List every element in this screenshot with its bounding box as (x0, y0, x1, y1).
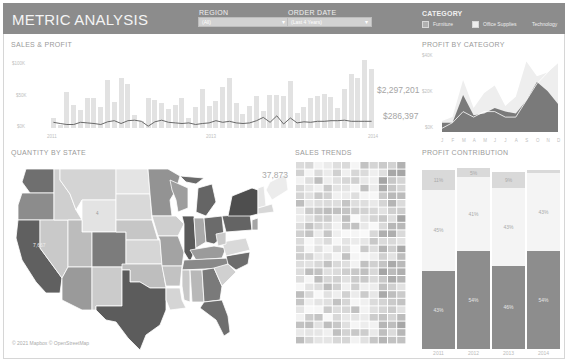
heatmap-cell (333, 223, 341, 230)
heatmap-cell (342, 284, 350, 291)
heatmap-cell (379, 322, 387, 329)
heatmap-cell (314, 253, 322, 260)
month-tick: J (504, 138, 506, 143)
heatmap-cell (305, 329, 313, 336)
heatmap-cell (351, 185, 359, 192)
heatmap-cell (360, 322, 368, 329)
heatmap-cell (314, 185, 322, 192)
map-max-value: 37,873 (262, 170, 288, 180)
heatmap-cell (360, 253, 368, 260)
heatmap-cell (324, 261, 332, 268)
state-pennsylvania (222, 214, 252, 232)
heatmap-cell (342, 192, 350, 199)
profit-contribution-chart[interactable]: 43%45%11%54%41%5%46%43%9%54%43% (422, 168, 562, 349)
heatmap-cell (397, 329, 405, 336)
heatmap-cell (379, 299, 387, 306)
state-south-dakota (116, 194, 152, 220)
heatmap-cell (342, 306, 350, 313)
heatmap-cell (370, 261, 378, 268)
heatmap-cell (333, 200, 341, 207)
heatmap-cell (379, 261, 387, 268)
heatmap-cell (305, 268, 313, 275)
heatmap-cell (397, 215, 405, 222)
heatmap-cell (397, 268, 405, 275)
heatmap-cell (370, 306, 378, 313)
heatmap-cell (351, 261, 359, 268)
category-label-furniture: Furniture (433, 21, 453, 27)
heatmap-cell (342, 208, 350, 215)
month-tick: J (494, 138, 496, 143)
sales-profit-chart[interactable] (50, 55, 375, 128)
state-wyoming (82, 200, 116, 232)
heatmap-cell (314, 223, 322, 230)
heatmap-cell (333, 246, 341, 253)
heatmap-cell (388, 306, 396, 313)
heatmap-cell (314, 299, 322, 306)
heatmap-cell (342, 268, 350, 275)
checkbox-icon[interactable] (472, 21, 479, 28)
year-label: 2013 (492, 350, 525, 356)
heatmap-cell (388, 177, 396, 184)
heatmap-cell (296, 261, 304, 268)
map-attribution[interactable]: © 2021 Mapbox © OpenStreetMap (12, 340, 89, 346)
heatmap-cell (314, 246, 322, 253)
heatmap-cell (351, 162, 359, 169)
heatmap-cell (342, 276, 350, 283)
heatmap-cell (351, 276, 359, 283)
heatmap-cell (388, 276, 396, 283)
heatmap-cell (388, 284, 396, 291)
us-choropleth-map[interactable] (0, 160, 290, 350)
profit-contribution-segment[interactable] (527, 170, 560, 174)
heatmap-cell (397, 200, 405, 207)
month-tick: D (557, 138, 560, 143)
profit-by-category-chart[interactable] (442, 54, 558, 132)
sales-profit-title: SALES & PROFIT (11, 41, 72, 48)
heatmap-cell (324, 314, 332, 321)
heatmap-cell (397, 246, 405, 253)
state-iowa (152, 216, 184, 236)
heatmap-cell (324, 162, 332, 169)
heatmap-cell (388, 246, 396, 253)
heatmap-cell (370, 314, 378, 321)
heatmap-cell (351, 306, 359, 313)
region-dropdown[interactable]: (All) ▾ (198, 17, 289, 27)
heatmap-cell (397, 185, 405, 192)
category-checkbox-office-supplies[interactable]: Office Supplies (472, 20, 517, 28)
heatmap-cell (314, 322, 322, 329)
heatmap-cell (296, 200, 304, 207)
category-checkbox-furniture[interactable]: Furniture (422, 20, 453, 28)
heatmap-cell (314, 230, 322, 237)
heatmap-cell (360, 268, 368, 275)
heatmap-cell (397, 322, 405, 329)
segment-label: 9% (492, 177, 525, 183)
heatmap-cell (324, 238, 332, 245)
heatmap-cell (296, 268, 304, 275)
order-date-dropdown[interactable]: (Last 4 Years) ▾ (287, 17, 372, 27)
heatmap-cell (333, 322, 341, 329)
checkbox-icon[interactable] (422, 21, 429, 28)
heatmap-cell (324, 284, 332, 291)
california-label: 7,667 (33, 242, 46, 248)
state-missouri (158, 236, 184, 266)
segment-label: 5% (457, 170, 490, 176)
heatmap-cell (296, 192, 304, 199)
heatmap-cell (351, 177, 359, 184)
heatmap-cell (314, 284, 322, 291)
category-checkbox-technology[interactable]: Technology (532, 20, 557, 28)
year-label: 2012 (457, 350, 490, 356)
heatmap-cell (342, 200, 350, 207)
heatmap-cell (296, 215, 304, 222)
heatmap-cell (333, 185, 341, 192)
heatmap-cell (305, 215, 313, 222)
state-new-mexico (92, 267, 122, 310)
state-vermont (258, 186, 266, 208)
heatmap-cell (296, 208, 304, 215)
heatmap-cell (388, 230, 396, 237)
heatmap-cell (296, 253, 304, 260)
profit-contribution-title: PROFIT CONTRIBUTION (422, 149, 508, 156)
heatmap-cell (397, 314, 405, 321)
heatmap-cell (351, 329, 359, 336)
state-oregon (18, 193, 54, 220)
sales-trends-heatmap[interactable] (296, 162, 414, 352)
heatmap-cell (305, 306, 313, 313)
